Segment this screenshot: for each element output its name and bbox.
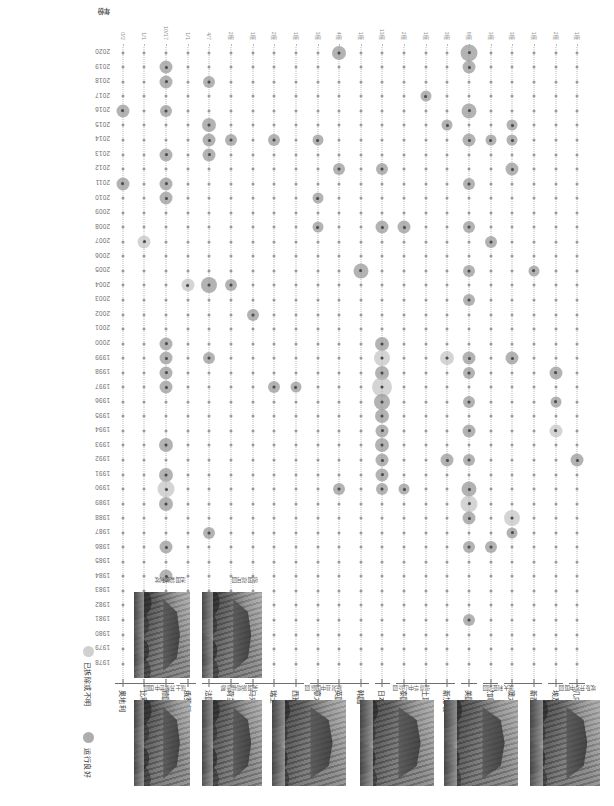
- data-bubble[interactable]: [203, 134, 216, 147]
- data-bubble[interactable]: [463, 352, 476, 365]
- data-bubble[interactable]: [376, 163, 388, 175]
- data-bubble[interactable]: [506, 163, 519, 176]
- data-bubble[interactable]: [375, 438, 389, 452]
- data-bubble[interactable]: [376, 454, 389, 467]
- data-bubble[interactable]: [463, 134, 476, 147]
- data-bubble[interactable]: [528, 265, 539, 276]
- data-bubble[interactable]: [550, 396, 561, 407]
- garden-photo-0[interactable]: [530, 700, 600, 786]
- data-bubble[interactable]: [374, 394, 390, 410]
- data-bubble[interactable]: [462, 103, 477, 118]
- legend-item-0[interactable]: 已拆除或不明: [83, 646, 94, 706]
- data-bubble[interactable]: [463, 541, 475, 553]
- data-bubble[interactable]: [440, 351, 454, 365]
- data-bubble[interactable]: [225, 134, 237, 146]
- data-bubble[interactable]: [463, 367, 475, 379]
- data-bubble[interactable]: [353, 263, 368, 278]
- data-bubble[interactable]: [376, 468, 389, 481]
- data-bubble[interactable]: [463, 265, 475, 277]
- data-bubble[interactable]: [203, 148, 216, 161]
- data-bubble[interactable]: [160, 541, 173, 554]
- data-bubble[interactable]: [376, 221, 389, 234]
- data-bubble[interactable]: [116, 104, 129, 117]
- data-bubble[interactable]: [160, 75, 173, 88]
- data-bubble[interactable]: [463, 178, 475, 190]
- data-bubble[interactable]: [160, 192, 173, 205]
- garden-photo-7[interactable]: [202, 592, 262, 678]
- garden-photo-1[interactable]: [444, 700, 518, 786]
- data-bubble[interactable]: [159, 438, 173, 452]
- data-bubble[interactable]: [116, 177, 129, 190]
- data-bubble[interactable]: [485, 135, 496, 146]
- data-bubble[interactable]: [507, 527, 518, 538]
- garden-photo-3[interactable]: [272, 700, 346, 786]
- data-bubble[interactable]: [203, 76, 215, 88]
- data-bubble[interactable]: [507, 135, 518, 146]
- data-bubble[interactable]: [160, 61, 173, 74]
- garden-photo-5[interactable]: [134, 700, 190, 786]
- data-bubble[interactable]: [312, 193, 323, 204]
- data-bubble[interactable]: [160, 177, 173, 190]
- data-bubble[interactable]: [225, 279, 237, 291]
- data-bubble[interactable]: [485, 236, 497, 248]
- data-bubble[interactable]: [461, 44, 478, 61]
- data-bubble[interactable]: [549, 424, 562, 437]
- data-bubble[interactable]: [463, 512, 476, 525]
- data-bubble[interactable]: [375, 337, 389, 351]
- data-bubble[interactable]: [375, 409, 389, 423]
- data-bubble[interactable]: [202, 118, 216, 132]
- data-bubble[interactable]: [159, 468, 173, 482]
- garden-photo-2[interactable]: [360, 700, 434, 786]
- data-bubble[interactable]: [160, 366, 173, 379]
- data-bubble[interactable]: [332, 46, 346, 60]
- data-bubble[interactable]: [203, 527, 215, 539]
- data-bubble[interactable]: [461, 495, 478, 512]
- data-bubble[interactable]: [398, 221, 411, 234]
- data-bubble[interactable]: [463, 424, 476, 437]
- data-bubble[interactable]: [463, 614, 475, 626]
- data-bubble[interactable]: [376, 424, 389, 437]
- data-bubble[interactable]: [374, 350, 390, 366]
- data-bubble[interactable]: [376, 483, 388, 495]
- data-bubble[interactable]: [312, 135, 323, 146]
- data-bubble[interactable]: [160, 105, 172, 117]
- data-bubble[interactable]: [506, 352, 519, 365]
- data-bubble[interactable]: [201, 277, 217, 293]
- data-bubble[interactable]: [268, 134, 280, 146]
- data-bubble[interactable]: [160, 148, 173, 161]
- data-bubble[interactable]: [507, 120, 518, 131]
- data-bubble[interactable]: [333, 483, 345, 495]
- data-bubble[interactable]: [549, 366, 562, 379]
- data-bubble[interactable]: [463, 221, 475, 233]
- data-bubble[interactable]: [160, 381, 173, 394]
- data-bubble[interactable]: [463, 294, 475, 306]
- data-bubble[interactable]: [485, 541, 497, 553]
- data-bubble[interactable]: [268, 381, 280, 393]
- data-bubble[interactable]: [181, 279, 194, 292]
- data-bubble[interactable]: [333, 163, 345, 175]
- data-bubble[interactable]: [159, 497, 173, 511]
- legend-item-1[interactable]: 运行良好: [83, 732, 94, 778]
- timeline-tick-dot: [316, 357, 319, 360]
- data-bubble[interactable]: [463, 396, 475, 408]
- data-bubble[interactable]: [247, 309, 259, 321]
- data-bubble[interactable]: [160, 337, 173, 350]
- timeline-tick-dot: [424, 546, 427, 549]
- data-bubble[interactable]: [463, 61, 476, 74]
- data-bubble[interactable]: [158, 481, 175, 498]
- garden-photo-4[interactable]: [202, 700, 262, 786]
- data-bubble[interactable]: [504, 510, 520, 526]
- data-bubble[interactable]: [442, 120, 453, 131]
- data-bubble[interactable]: [312, 222, 323, 233]
- data-bubble[interactable]: [399, 484, 410, 495]
- data-bubble[interactable]: [160, 352, 173, 365]
- data-bubble[interactable]: [203, 352, 215, 364]
- data-bubble[interactable]: [138, 235, 151, 248]
- garden-photo-6[interactable]: [134, 592, 190, 678]
- data-bubble[interactable]: [571, 454, 584, 467]
- data-bubble[interactable]: [441, 454, 454, 467]
- timeline-tick-dot: [359, 357, 362, 360]
- data-bubble[interactable]: [420, 91, 431, 102]
- data-bubble[interactable]: [463, 454, 475, 466]
- data-bubble[interactable]: [290, 382, 301, 393]
